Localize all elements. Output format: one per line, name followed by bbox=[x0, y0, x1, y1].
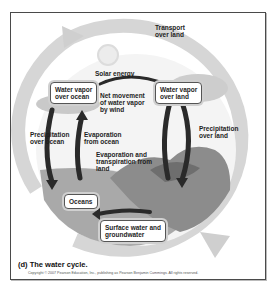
figure-caption: (d) The water cycle. bbox=[18, 260, 88, 269]
evaporation-ocean-label: Evaporation from ocean bbox=[84, 131, 122, 145]
precipitation-ocean-label: Precipitation over ocean bbox=[30, 131, 69, 145]
scene-disk bbox=[36, 45, 236, 246]
net-movement-label: Net movement of water vapor by wind bbox=[100, 92, 145, 113]
sun-icon bbox=[98, 45, 118, 65]
evaporation-land-label: Evaporation and transpiration from land bbox=[96, 151, 152, 172]
surface-water-node: Surface water and groundwater bbox=[100, 220, 166, 242]
transport-over-land-label: Transport over land bbox=[155, 24, 185, 38]
copyright-notice: Copyright © 2007 Pearson Education, Inc.… bbox=[28, 271, 198, 275]
solar-energy-label: Solar energy bbox=[95, 70, 134, 77]
oceans-node: Oceans bbox=[64, 194, 98, 209]
water-vapor-land-node: Water vapor over land bbox=[155, 82, 202, 104]
precipitation-land-label: Precipitation over land bbox=[199, 125, 238, 139]
water-vapor-ocean-node: Water vapor over ocean bbox=[50, 82, 97, 104]
water-cycle-diagram bbox=[0, 0, 272, 292]
